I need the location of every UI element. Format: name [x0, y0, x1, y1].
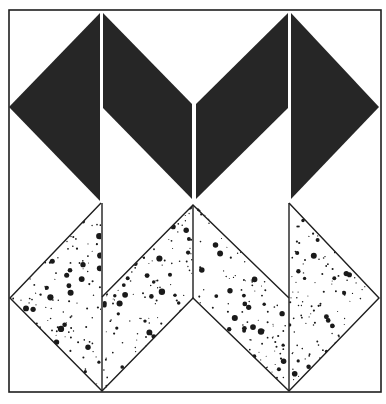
- quilt-block-figure: [0, 0, 386, 404]
